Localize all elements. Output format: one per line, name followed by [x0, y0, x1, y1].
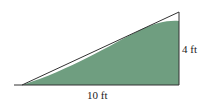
height-label: 4 ft — [182, 43, 197, 55]
triangle-figure — [0, 0, 206, 103]
diagram-canvas: 4 ft 10 ft — [0, 0, 206, 103]
base-label: 10 ft — [87, 89, 107, 101]
shaded-region — [22, 21, 179, 85]
